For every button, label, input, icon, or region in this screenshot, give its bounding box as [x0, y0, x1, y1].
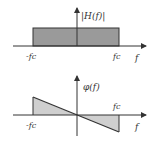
passband-rect [33, 28, 119, 46]
bottom-x-label: f [134, 122, 140, 132]
bottom-pos-cutoff: fc [112, 102, 121, 111]
magnitude-plot: |H(f)| -fc fc f [13, 8, 146, 63]
phase-plot: φ(f) fc -fc f [13, 76, 146, 136]
top-y-label: |H(f)| [81, 11, 105, 22]
top-pos-cutoff: fc [112, 52, 121, 61]
filter-response-diagram: |H(f)| -fc fc f φ(f) fc -fc f [0, 0, 158, 142]
top-neg-cutoff: -fc [26, 52, 37, 61]
bottom-y-label: φ(f) [83, 82, 100, 92]
bottom-neg-cutoff: -fc [26, 121, 37, 130]
top-x-label: f [134, 53, 140, 63]
